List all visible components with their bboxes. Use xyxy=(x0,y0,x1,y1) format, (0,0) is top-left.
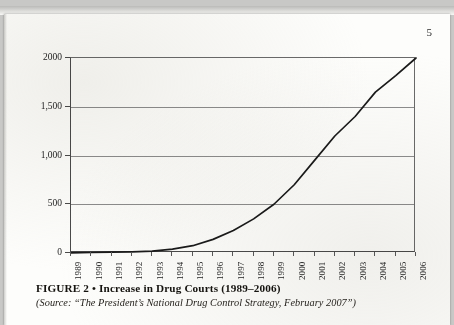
x-axis-tick-label: 1997 xyxy=(236,262,246,280)
x-axis-tick-label: 1996 xyxy=(215,262,225,280)
x-axis-tick-mark xyxy=(415,252,416,256)
x-axis-tick-label: 2001 xyxy=(317,262,327,280)
x-axis-tick-label: 1998 xyxy=(256,262,266,280)
y-axis-tick-label: 1,000 xyxy=(41,150,62,160)
x-axis-tick-mark xyxy=(253,252,254,256)
x-axis-tick-mark xyxy=(131,252,132,256)
chart-figure: 20001,5001,0005000 198919901991199219931… xyxy=(0,0,454,325)
x-axis-tick-mark xyxy=(111,252,112,256)
x-axis-tick-label: 1991 xyxy=(114,262,124,280)
x-axis-tick-label: 2000 xyxy=(297,262,307,280)
caption-block: FIGURE 2 • Increase in Drug Courts (1989… xyxy=(36,282,436,308)
x-axis-tick-mark xyxy=(334,252,335,256)
x-axis-tick-mark xyxy=(171,252,172,256)
x-axis-tick-mark xyxy=(90,252,91,256)
y-axis-tick-label: 2000 xyxy=(43,52,62,62)
x-axis-tick-label: 2003 xyxy=(358,262,368,280)
x-axis-tick-mark xyxy=(354,252,355,256)
x-axis-tick-mark xyxy=(293,252,294,256)
x-axis-tick-label: 2004 xyxy=(378,262,388,280)
x-axis-tick-mark xyxy=(70,252,71,256)
x-axis-tick-label: 1993 xyxy=(155,262,165,280)
x-axis-tick-label: 1995 xyxy=(195,262,205,280)
x-axis-tick-label: 1994 xyxy=(175,262,185,280)
x-axis-tick-mark xyxy=(395,252,396,256)
x-axis-tick-label: 2006 xyxy=(418,262,428,280)
x-axis-tick-label: 2002 xyxy=(337,262,347,280)
x-axis-tick-label: 1989 xyxy=(73,262,83,280)
figure-source-note: (Source: “The President’s National Drug … xyxy=(36,297,436,308)
x-axis-tick-mark xyxy=(374,252,375,256)
x-axis-tick-mark xyxy=(314,252,315,256)
data-series-line xyxy=(71,58,416,253)
x-axis-tick-label: 1990 xyxy=(94,262,104,280)
plot-area xyxy=(70,57,415,252)
x-axis-tick-label: 1992 xyxy=(134,262,144,280)
x-axis-tick-mark xyxy=(192,252,193,256)
y-axis-tick-label: 0 xyxy=(57,247,62,257)
y-axis-tick-label: 500 xyxy=(48,198,62,208)
figure-caption: FIGURE 2 • Increase in Drug Courts (1989… xyxy=(36,282,436,294)
x-axis-tick-label: 1999 xyxy=(276,262,286,280)
y-axis-tick-label: 1,500 xyxy=(41,101,62,111)
x-axis-tick-mark xyxy=(273,252,274,256)
x-axis-tick-label: 2005 xyxy=(398,262,408,280)
x-axis-tick-mark xyxy=(212,252,213,256)
x-axis-tick-mark xyxy=(151,252,152,256)
x-axis-tick-mark xyxy=(232,252,233,256)
